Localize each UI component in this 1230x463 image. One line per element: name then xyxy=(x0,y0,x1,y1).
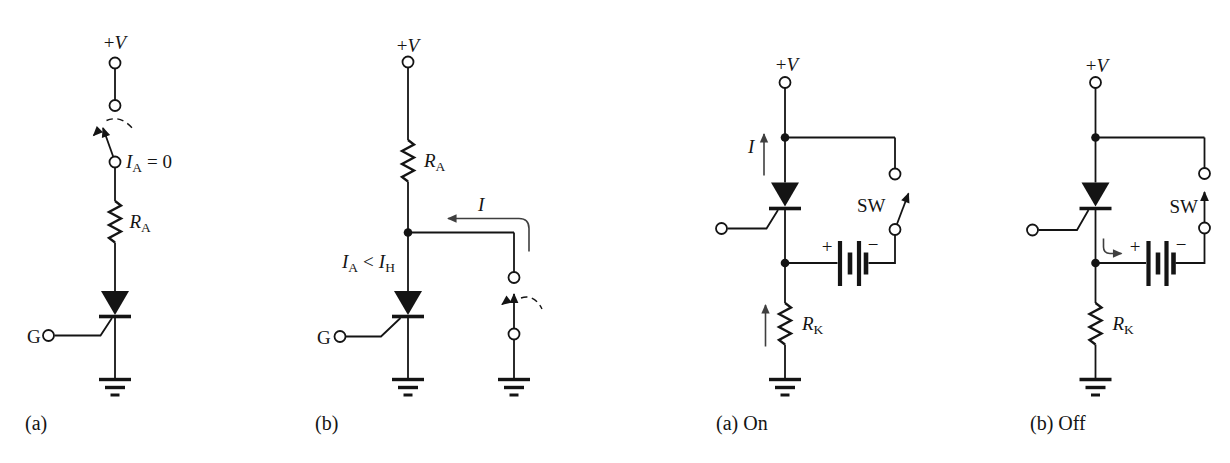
scr-gate-lead xyxy=(346,318,401,337)
supply-terminal xyxy=(780,77,791,88)
holding-current-condition-label: IA<IH xyxy=(341,251,395,275)
switch-label: SW xyxy=(857,195,886,216)
switch-motion-arrow xyxy=(502,300,509,305)
battery-plus-label: + xyxy=(1130,236,1141,257)
circuit-forced-commutation-on: +V I SW + − RK xyxy=(716,54,909,435)
circuit-diagrams-canvas: +V IA= 0 RA G (a) +V xyxy=(0,0,1230,463)
circuit-forced-commutation-off: +V SW + − RK xyxy=(1027,55,1210,435)
battery-symbol xyxy=(840,241,866,286)
gate-terminal xyxy=(1027,225,1038,236)
figure-caption: (a) xyxy=(25,412,47,435)
gate-terminal xyxy=(716,223,727,234)
switch-moving-contact xyxy=(110,157,121,168)
gate-label: G xyxy=(317,327,331,348)
switch-closing xyxy=(502,272,542,340)
circuit-current-diversion: +V RA I IA<IH G xyxy=(315,35,542,435)
anode-current-label: I xyxy=(747,136,756,157)
figure-caption: (b) xyxy=(315,412,338,435)
gate-label: G xyxy=(27,326,41,347)
figure-caption: (b) Off xyxy=(1030,412,1086,435)
scr-thyristor xyxy=(43,291,131,341)
scr-triangle xyxy=(771,183,799,207)
battery-minus-label: − xyxy=(868,234,879,255)
gate-terminal xyxy=(335,331,346,342)
switch-blade xyxy=(897,194,909,225)
battery-plus-label: + xyxy=(822,236,833,257)
diverted-current-arrow xyxy=(448,219,529,252)
circuit-anode-interruption: +V IA= 0 RA G (a) xyxy=(25,32,172,435)
resistor-ra-label: RA xyxy=(423,150,446,174)
switch-label: SW xyxy=(1170,196,1199,217)
switch-fixed-contact xyxy=(890,169,901,180)
supply-label: +V xyxy=(104,32,129,53)
resistor-rk-label: RK xyxy=(1112,313,1135,337)
scr-turn-off-figure: +V IA= 0 RA G (a) +V xyxy=(0,0,1230,463)
supply-label: +V xyxy=(1086,55,1111,76)
supply-terminal xyxy=(1090,77,1101,88)
switch-fixed-contact xyxy=(110,100,121,111)
resistor-rk-label: RK xyxy=(801,313,824,337)
supply-terminal xyxy=(110,58,121,69)
resistor-rk xyxy=(779,303,791,345)
scr-gate-lead xyxy=(55,318,113,336)
switch-blade xyxy=(103,128,114,158)
scr-triangle xyxy=(1082,183,1110,207)
scr-triangle xyxy=(394,291,422,315)
gate-terminal xyxy=(43,330,54,341)
switch-closed xyxy=(1199,168,1210,234)
switch-fixed-contact xyxy=(1199,168,1210,179)
switch-fixed-contact xyxy=(509,272,520,283)
switch-motion-arrow xyxy=(94,130,100,136)
ground-symbol xyxy=(99,380,131,396)
scr-thyristor xyxy=(1027,183,1112,236)
scr-triangle xyxy=(101,291,129,315)
scr-thyristor xyxy=(335,291,425,342)
resistor-ra xyxy=(109,201,121,243)
anode-current-label: IA= 0 xyxy=(125,151,172,175)
ground-symbol xyxy=(498,380,530,396)
supply-label: +V xyxy=(776,54,801,75)
ground-symbol xyxy=(1080,380,1112,396)
diverted-current-label: I xyxy=(477,194,486,215)
ground-symbol xyxy=(392,380,424,396)
battery-symbol xyxy=(1149,241,1174,286)
resistor-ra-label: RA xyxy=(129,211,152,235)
switch-moving-contact xyxy=(1199,223,1210,234)
switch-moving-contact xyxy=(509,329,520,340)
scr-thyristor xyxy=(716,183,801,235)
switch-moving-contact xyxy=(890,224,901,235)
figure-caption: (a) On xyxy=(716,412,768,435)
supply-label: +V xyxy=(397,35,422,56)
resistor-ra xyxy=(402,140,414,182)
supply-terminal xyxy=(403,57,414,68)
ground-symbol xyxy=(769,380,801,396)
switch-open xyxy=(890,169,909,236)
switch-motion-arc xyxy=(521,297,542,309)
resistor-rk xyxy=(1090,303,1102,345)
switch-motion-arc xyxy=(107,119,134,129)
reverse-current-arrow xyxy=(1104,239,1122,254)
battery-minus-label: − xyxy=(1176,234,1187,255)
scr-gate-lead xyxy=(1039,210,1089,230)
scr-gate-lead xyxy=(728,210,779,229)
